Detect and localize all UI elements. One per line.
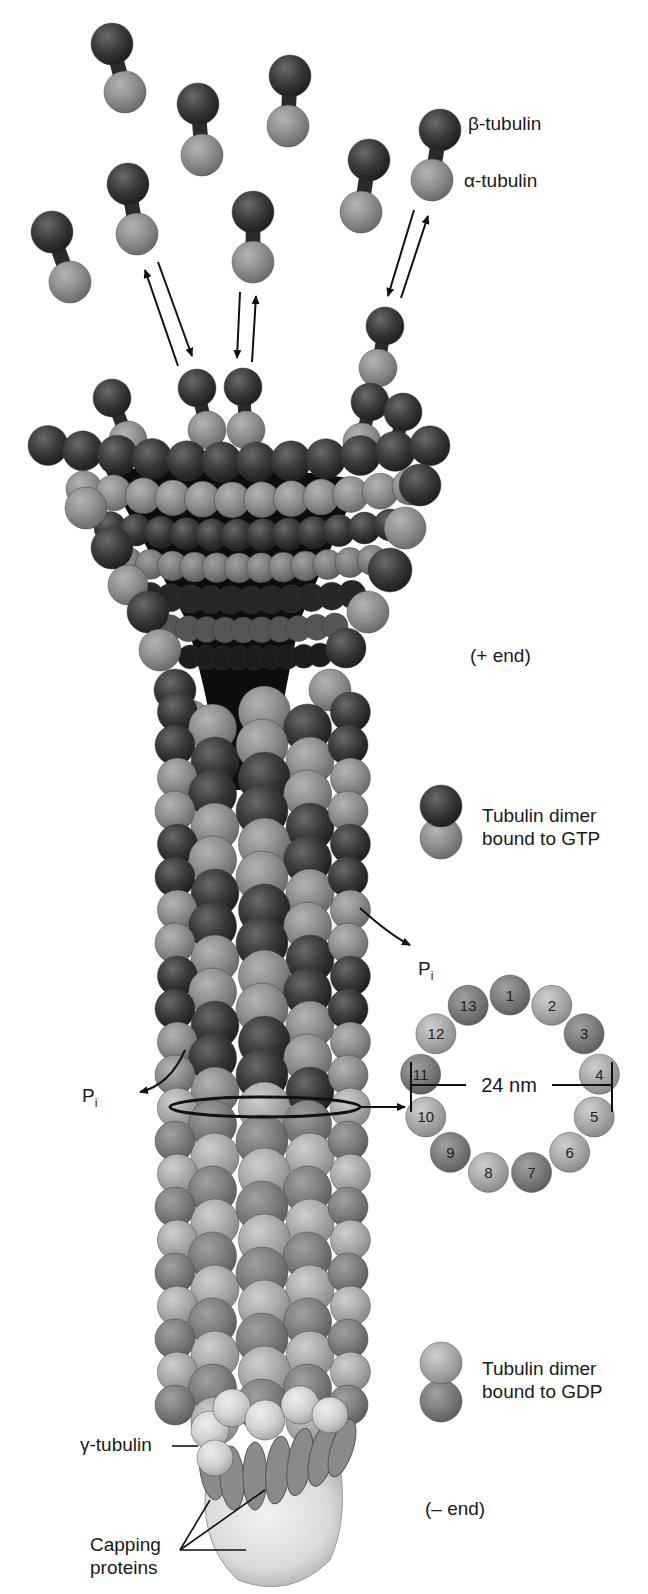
beta-tubulin-subunit bbox=[178, 369, 216, 407]
beta-tubulin-subunit bbox=[232, 191, 274, 233]
protofilament-number: 5 bbox=[590, 1108, 598, 1125]
protofilament-number: 6 bbox=[566, 1144, 574, 1161]
gtp-dimer-label-line2: bound to GTP bbox=[482, 828, 600, 850]
association-arrow bbox=[388, 210, 414, 296]
capping-leader bbox=[180, 1500, 210, 1550]
protofilament-12: 12 bbox=[416, 1014, 456, 1054]
tubulin-subunit bbox=[65, 487, 107, 529]
gtp-dimer-label-line1: Tubulin dimer bbox=[482, 805, 596, 827]
tubulin-subunit bbox=[155, 1385, 195, 1425]
beta-tubulin-subunit bbox=[93, 379, 131, 417]
protofilament-number: 2 bbox=[548, 997, 556, 1014]
beta-tubulin-subunit bbox=[420, 785, 462, 827]
alpha-tubulin-subunit bbox=[116, 213, 158, 255]
protofilament-number: 13 bbox=[460, 997, 477, 1014]
gdp-dimer-label-line2: bound to GDP bbox=[482, 1381, 602, 1403]
beta-tubulin-subunit bbox=[419, 109, 461, 151]
beta-tubulin-label: β-tubulin bbox=[468, 113, 541, 135]
free-tubulin-dimer bbox=[340, 139, 390, 233]
protofilament-4: 4 bbox=[579, 1054, 619, 1094]
alpha-tubulin-subunit bbox=[420, 1380, 462, 1422]
protofilament-6: 6 bbox=[550, 1132, 590, 1172]
free-tubulin-dimer bbox=[267, 55, 311, 147]
protofilament-9: 9 bbox=[430, 1132, 470, 1172]
protofilament-2: 2 bbox=[532, 985, 572, 1025]
minus-end-label: (– end) bbox=[425, 1498, 485, 1520]
dissociation-arrow bbox=[401, 216, 428, 298]
capping-protein bbox=[243, 1442, 267, 1510]
tubulin-subunit bbox=[410, 426, 450, 466]
gamma-tubulin-subunit bbox=[245, 1400, 285, 1440]
protofilament-number: 11 bbox=[413, 1066, 429, 1083]
gamma-tubulin-subunit bbox=[197, 1440, 233, 1476]
tubulin-subunit bbox=[97, 435, 137, 475]
association-arrow bbox=[158, 262, 192, 356]
beta-tubulin-subunit bbox=[351, 383, 389, 421]
alpha-tubulin-subunit bbox=[104, 71, 146, 113]
tubulin-subunit bbox=[28, 425, 68, 465]
alpha-tubulin-subunit bbox=[267, 105, 309, 147]
beta-tubulin-subunit bbox=[31, 211, 73, 253]
association-arrow bbox=[237, 292, 240, 358]
gamma-tubulin-label: γ-tubulin bbox=[80, 1434, 152, 1456]
diameter-label: 24 nm bbox=[481, 1074, 537, 1096]
protruding-dimer bbox=[359, 307, 404, 387]
tubulin-subunit bbox=[63, 431, 103, 471]
protofilament-number: 10 bbox=[418, 1108, 435, 1125]
free-tubulin-dimer bbox=[91, 23, 146, 113]
free-tubulin-dimer bbox=[177, 83, 223, 176]
tubulin-subunit bbox=[91, 527, 133, 569]
protofilament-number: 1 bbox=[506, 987, 514, 1004]
tubulin-subunit bbox=[167, 441, 207, 481]
beta-tubulin-subunit bbox=[91, 23, 133, 65]
protofilament-3: 3 bbox=[564, 1014, 604, 1054]
beta-tubulin-subunit bbox=[348, 139, 390, 181]
free-tubulin-dimer bbox=[31, 211, 91, 303]
beta-tubulin-subunit bbox=[384, 393, 422, 431]
tubulin-subunit bbox=[399, 464, 441, 506]
plus-end-label: (+ end) bbox=[470, 645, 531, 667]
dissociation-arrow bbox=[252, 296, 256, 362]
alpha-tubulin-subunit bbox=[232, 241, 274, 283]
protofilament-number: 9 bbox=[446, 1144, 454, 1161]
microtubule-diagram: 1234567891011121324 nm β-tubulin α-tubul… bbox=[0, 0, 648, 1594]
beta-tubulin-subunit bbox=[420, 1342, 462, 1384]
beta-tubulin-subunit bbox=[224, 368, 262, 406]
tubulin-subunit bbox=[306, 439, 346, 479]
alpha-tubulin-subunit bbox=[411, 159, 453, 201]
beta-tubulin-subunit bbox=[177, 83, 219, 125]
free-tubulin-dimer bbox=[232, 191, 274, 283]
capping-proteins-label-line1: Capping bbox=[90, 1534, 161, 1556]
tubulin-subunit bbox=[132, 439, 172, 479]
tubulin-subunit bbox=[341, 435, 381, 475]
protofilament-8: 8 bbox=[468, 1152, 508, 1192]
protofilament-5: 5 bbox=[574, 1097, 614, 1137]
alpha-tubulin-subunit bbox=[359, 349, 397, 387]
protofilament-number: 8 bbox=[484, 1164, 492, 1181]
dissociation-arrow bbox=[145, 270, 178, 366]
gdp-dimer-label-line1: Tubulin dimer bbox=[482, 1358, 596, 1380]
alpha-tubulin-label: α-tubulin bbox=[464, 170, 537, 192]
alpha-tubulin-subunit bbox=[49, 261, 91, 303]
protruding-dimer bbox=[224, 368, 265, 449]
beta-tubulin-subunit bbox=[107, 163, 149, 205]
free-tubulin-dimer bbox=[411, 109, 461, 201]
tubulin-subunit bbox=[271, 441, 311, 481]
tubulin-subunit bbox=[127, 591, 169, 633]
protofilament-number: 3 bbox=[580, 1025, 588, 1042]
microtubule-wall bbox=[155, 686, 370, 1445]
tubulin-subunit bbox=[326, 628, 366, 668]
tubulin-subunit bbox=[347, 591, 389, 633]
protofilament-13: 13 bbox=[448, 985, 488, 1025]
free-tubulin-dimers bbox=[31, 23, 461, 303]
tubulin-subunit bbox=[375, 431, 415, 471]
protofilament-row bbox=[178, 643, 332, 670]
protofilament-1: 1 bbox=[490, 975, 530, 1015]
gamma-tubulin-subunit bbox=[312, 1397, 348, 1433]
tubulin-subunit bbox=[368, 548, 412, 592]
tubulin-subunit bbox=[139, 629, 181, 671]
protruding-dimer bbox=[178, 369, 226, 449]
protofilament-7: 7 bbox=[512, 1152, 552, 1192]
legend-gdp-dimer-icon bbox=[420, 1342, 462, 1422]
legend-gtp-dimer-icon bbox=[420, 785, 462, 859]
